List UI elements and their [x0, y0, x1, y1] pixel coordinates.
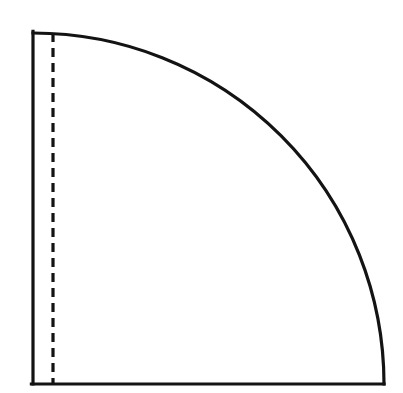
quarter-circle-diagram — [0, 0, 403, 393]
sector-interior-fill — [33, 33, 384, 384]
figure-canvas — [0, 0, 403, 393]
